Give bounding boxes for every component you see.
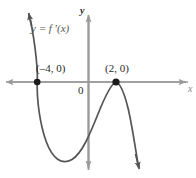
point-right-root	[112, 78, 119, 85]
graph-canvas	[0, 0, 196, 178]
right-root-label: (2, 0)	[105, 63, 129, 74]
origin-label: 0	[78, 85, 84, 96]
curve-equation-label: y = f ′(x)	[31, 23, 69, 34]
y-axis-label: y	[80, 6, 84, 16]
graph-figure: y = f ′(x) (–4, 0) (2, 0) 0 y x	[0, 0, 196, 178]
left-root-label: (–4, 0)	[36, 63, 65, 74]
x-axis-label: x	[188, 84, 192, 94]
point-left-root	[34, 79, 41, 86]
